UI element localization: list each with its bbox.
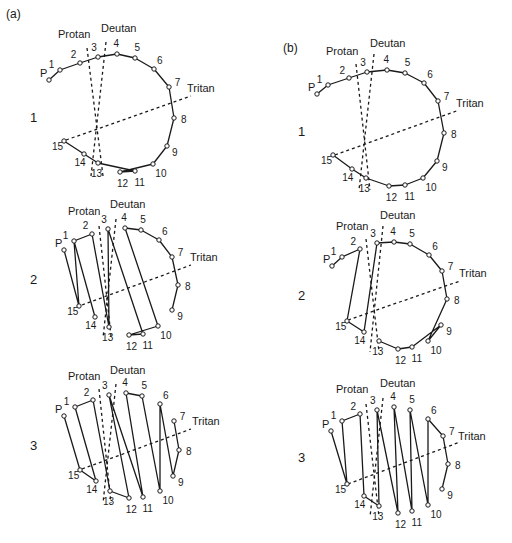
cap-marker xyxy=(107,393,111,397)
cap-number-label: P xyxy=(323,253,330,265)
cap-marker xyxy=(377,339,381,343)
cap-number-label: 5 xyxy=(135,42,141,53)
cap-marker xyxy=(364,176,368,180)
cap-number-label: 1 xyxy=(49,59,55,70)
cap-marker xyxy=(141,332,145,336)
cap-marker xyxy=(365,70,369,74)
cap-marker xyxy=(375,408,379,412)
cap-number-label: 9 xyxy=(178,477,184,488)
cap-marker xyxy=(133,169,137,173)
cap-marker xyxy=(140,394,144,398)
panel-b: (b)1ProtanDeutanTritan123456789101112131… xyxy=(283,37,487,530)
cap-number-label: 2 xyxy=(351,236,357,247)
cap-marker xyxy=(124,391,128,395)
cap-number-label: 14 xyxy=(342,172,354,183)
row-label: 3 xyxy=(30,438,37,453)
cap-number-label: 10 xyxy=(162,495,174,506)
cap-marker xyxy=(362,494,366,498)
cap-number-label: 3 xyxy=(370,395,376,406)
cap-marker xyxy=(330,264,334,268)
cap-marker xyxy=(387,184,391,188)
cap-marker xyxy=(151,162,155,166)
protan-confusion-axis xyxy=(366,239,379,352)
cap-marker xyxy=(172,116,176,120)
arrangement-path xyxy=(49,54,174,172)
cap-marker xyxy=(403,71,407,75)
cap-number-label: 8 xyxy=(454,295,460,306)
cap-marker xyxy=(58,68,62,72)
cap-number-label: 8 xyxy=(181,114,187,125)
cap-number-label: 4 xyxy=(122,377,128,388)
cap-number-label: 4 xyxy=(121,212,127,223)
plot-b-3: 3ProtanDeutanTritan123456789101112131415… xyxy=(298,377,486,530)
cap-number-label: 5 xyxy=(405,57,411,68)
arrangement-path xyxy=(64,393,179,498)
cap-marker xyxy=(422,81,426,85)
panel-a: (a)1ProtanDeutanTritan123456789101112131… xyxy=(6,7,220,515)
cap-marker xyxy=(410,345,414,349)
figure-caption-cutoff xyxy=(18,536,488,543)
cap-marker xyxy=(73,405,77,409)
cap-number-label: 1 xyxy=(331,246,337,257)
cap-marker xyxy=(127,496,131,500)
cap-number-label: 10 xyxy=(430,345,442,356)
tritan-axis-label: Tritan xyxy=(459,267,487,279)
cap-marker xyxy=(108,489,112,493)
cap-number-label: 12 xyxy=(126,341,138,352)
cap-marker xyxy=(426,417,430,421)
cap-marker xyxy=(152,67,156,71)
color-vision-arrangement-figure: (a)1ProtanDeutanTritan123456789101112131… xyxy=(0,0,512,543)
cap-number-label: 9 xyxy=(442,162,448,173)
cap-marker xyxy=(106,227,110,231)
cap-number-label: 12 xyxy=(117,178,129,189)
cap-number-label: 4 xyxy=(390,391,396,402)
cap-marker xyxy=(403,183,407,187)
cap-number-label: 12 xyxy=(395,355,407,366)
cap-marker xyxy=(107,325,111,329)
cap-marker xyxy=(96,55,100,59)
cap-marker xyxy=(326,83,330,87)
cap-number-label: 1 xyxy=(63,230,69,241)
cap-marker xyxy=(358,412,362,416)
cap-marker xyxy=(165,144,169,148)
deutan-axis-label: Deutan xyxy=(110,364,145,376)
cap-number-label: 15 xyxy=(67,306,79,317)
figure-root: (a)1ProtanDeutanTritan123456789101112131… xyxy=(6,7,487,530)
cap-number-label: 7 xyxy=(178,247,184,258)
arrangement-path xyxy=(64,228,178,335)
cap-marker xyxy=(436,99,440,103)
cap-number-label: 5 xyxy=(140,214,146,225)
cap-number-label: 4 xyxy=(113,38,119,49)
cap-marker xyxy=(315,92,319,96)
cap-number-label: 3 xyxy=(101,214,107,225)
cap-number-label: 14 xyxy=(74,157,86,168)
cap-number-label: 15 xyxy=(335,321,347,332)
cap-marker xyxy=(435,159,439,163)
cap-number-label: 13 xyxy=(372,511,384,522)
cap-marker xyxy=(141,495,145,499)
cap-marker xyxy=(167,85,171,89)
tritan-confusion-axis xyxy=(82,429,191,469)
arrangement-path xyxy=(331,407,448,513)
cap-number-label: 11 xyxy=(143,340,154,351)
cap-marker xyxy=(362,330,366,334)
protan-axis-label: Protan xyxy=(336,383,368,395)
cap-marker xyxy=(91,398,95,402)
cap-marker xyxy=(93,315,97,319)
cap-marker xyxy=(350,167,354,171)
cap-number-label: 3 xyxy=(91,42,97,53)
cap-number-label: 10 xyxy=(425,182,437,193)
tritan-confusion-axis xyxy=(348,281,460,320)
cap-number-label: 15 xyxy=(52,141,64,152)
plot-b-1: 1ProtanDeutanTritan123456789101112131415… xyxy=(298,37,484,203)
cap-marker xyxy=(96,161,100,165)
cap-marker xyxy=(82,152,86,156)
cap-marker xyxy=(440,269,444,273)
cap-number-label: 2 xyxy=(83,220,89,231)
cap-number-label: 9 xyxy=(447,490,453,501)
cap-marker xyxy=(347,76,351,80)
plot-a-2: 2ProtanDeutanTritan123456789101112131415… xyxy=(30,198,218,352)
cap-marker xyxy=(396,347,400,351)
cap-marker xyxy=(396,511,400,515)
protan-axis-label: Protan xyxy=(336,220,368,232)
